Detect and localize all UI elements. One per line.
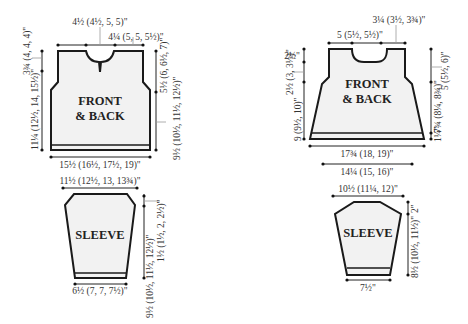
right-body-left-dimension: 2½" 2½ (3, 3½)" 9 (9½, 10)" — [284, 47, 305, 141]
right-rib-height-label: 1¼" — [433, 126, 443, 142]
right-top-dimension: 3¼ (3½, 3¾)" 5 (5½, 5½)" — [327, 15, 425, 45]
left-body-left-dimension: 3¾ (4, 4, 4)" 11¼ (12½, 14, 15½)" — [22, 27, 44, 152]
right-armhole-left-label: 2½ (3, 3½)" — [285, 49, 296, 95]
left-sleeve-cuff-label: 6½ (7, 7, 7½)" — [72, 286, 127, 297]
left-neck-width-label: 4½ (4½, 5, 5)" — [72, 17, 127, 28]
left-armhole-left-label: 3¾ (4, 4, 4)" — [22, 27, 33, 75]
right-sleeve-title: SLEEVE — [343, 226, 392, 240]
right-length-left-label: 9 (9½, 10)" — [293, 97, 304, 141]
left-sleeve-bottom-dimension: 6½ (7, 7, 7½)" — [72, 282, 127, 297]
schematic-canvas: FRONT & BACK 4½ (4½, 5, 5)" 4¼ (5, 5, 5½… — [0, 0, 468, 324]
left-body-bottom-dimension: 15½ (16½, 17½, 19)" — [49, 155, 151, 171]
left-sleeve-title: SLEEVE — [75, 228, 124, 242]
right-sleeve-cap-label: 2" — [410, 204, 420, 213]
right-body-bottom-dimension: 17¾ (18, 19)" 14¼ (15, 16)" — [308, 144, 425, 178]
left-body-title-2: & BACK — [75, 109, 125, 123]
left-bottom-width-label: 15½ (16½, 17½, 19)" — [59, 160, 141, 171]
right-bottom-width-label: 17¾ (18, 19)" — [341, 149, 394, 160]
left-sleeve-length-label: 9½ (10½, 11½, 12½)" — [145, 234, 156, 318]
left-sleeve-cap-label: 1½ (1½, 2, 2½)" — [156, 199, 167, 262]
right-sleeve-length-label: 8½ (10½, 11½)" — [410, 216, 421, 278]
right-sleeve-piece: SLEEVE — [335, 202, 401, 275]
right-top-body-width-label: 14¼ (15, 16)" — [341, 167, 394, 178]
right-sleeve-bottom-dimension: 7½" — [345, 278, 391, 293]
left-armhole-right-label: 5½ (6, 6½, 7)" — [159, 38, 170, 93]
right-body-right-dimension: 5 (5½, 6)" 7¾ (8¼, 8¾)" 1¼" — [429, 47, 451, 142]
right-sleeve-right-dimension: 2" 8½ (10½, 11½)" — [406, 200, 421, 278]
right-sleeve-top-dimension: 10½ (11¼, 12)" — [331, 184, 404, 198]
left-sleeve-piece: SLEEVE — [65, 194, 135, 278]
left-body-title-1: FRONT — [78, 94, 122, 108]
right-sleeve-cuff-label: 7½" — [360, 283, 376, 293]
left-length-left-label: 11¼ (12½, 14, 15½)" — [30, 69, 41, 150]
right-length-right-label: 7¾ (8¼, 8¾)" — [433, 80, 444, 133]
left-length-right-label: 9½ (10½, 11½, 12½)" — [172, 76, 183, 160]
left-sleeve-right-dimension: 1½ (1½, 2, 2½)" 9½ (10½, 11½, 12½)" — [142, 194, 167, 318]
left-sleeve-top-width-label: 11½ (12½, 13, 13¾)" — [59, 176, 140, 187]
left-front-back-piece: FRONT & BACK — [51, 51, 150, 150]
left-sleeve-top-dimension: 11½ (12½, 13, 13¾)" — [59, 176, 140, 190]
right-shoulder-width-label: 3¼ (3½, 3¾)" — [373, 15, 426, 26]
right-front-back-piece: FRONT & BACK — [310, 49, 424, 139]
right-body-title-1: FRONT — [345, 77, 389, 91]
right-body-title-2: & BACK — [342, 92, 392, 106]
right-sleeve-top-width-label: 10½ (11¼, 12)" — [338, 184, 398, 195]
right-neck-width-label: 5 (5½, 5½)" — [337, 30, 383, 41]
left-top-dimension: 4½ (4½, 5, 5)" 4¼ (5, 5, 5½)" — [56, 17, 163, 47]
left-shoulder-width-label: 4¼ (5, 5, 5½)" — [108, 32, 163, 43]
left-body-right-dimension: 5½ (6, 6½, 7)" 9½ (10½, 11½, 12½)" — [154, 38, 183, 160]
